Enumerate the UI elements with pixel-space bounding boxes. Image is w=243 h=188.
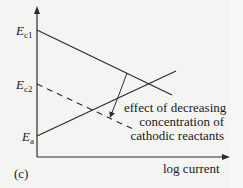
cathodic-line-ec1 (37, 30, 172, 95)
label-ec2: Ec2 (16, 78, 32, 94)
panel-label: (c) (14, 167, 28, 180)
annotation-line-3: cathodic reactants (124, 129, 224, 143)
annotation-line-1: effect of decreasing (124, 101, 224, 115)
evans-diagram (0, 0, 243, 188)
y-axis-arrow-icon (34, 6, 40, 14)
annotation-text: effect of decreasing concentration of ca… (124, 101, 224, 143)
diagram-canvas: Ec1 Ec2 Ea effect of decreasing concentr… (0, 0, 243, 188)
x-axis-arrow-icon (222, 154, 230, 160)
label-ec1: Ec1 (16, 24, 32, 40)
label-ea: Ea (22, 130, 34, 146)
x-axis-label: log current (163, 162, 220, 175)
annotation-line-2: concentration of (124, 115, 224, 129)
